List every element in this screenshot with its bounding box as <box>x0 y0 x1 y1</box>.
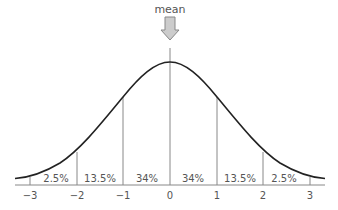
region-label: 2.5% <box>43 173 68 184</box>
region-label: 34% <box>182 173 204 184</box>
mean-arrow-icon <box>161 17 179 40</box>
region-label: 2.5% <box>271 173 296 184</box>
region-label: 34% <box>136 173 158 184</box>
tick-label: 0 <box>167 190 173 201</box>
tick-label: 1 <box>214 190 220 201</box>
tick-label: −2 <box>70 190 85 201</box>
tick-label: −3 <box>23 190 38 201</box>
mean-label: mean <box>154 3 185 16</box>
region-label: 13.5% <box>84 173 116 184</box>
tick-label: 3 <box>307 190 313 201</box>
tick-label: −1 <box>116 190 131 201</box>
tick-label: 2 <box>260 190 266 201</box>
region-label: 13.5% <box>224 173 256 184</box>
normal-distribution-diagram: mean 2.5% 13.5% 34% 34% 13.5% 2.5% −3 −2… <box>0 0 338 210</box>
